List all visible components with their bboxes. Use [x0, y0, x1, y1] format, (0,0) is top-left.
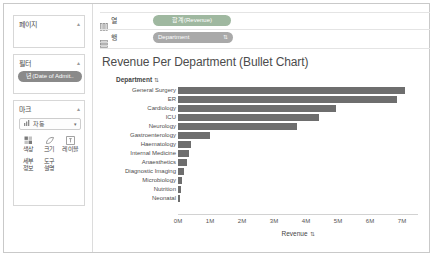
bar-category-label: Nutrition: [154, 185, 176, 194]
bar-row[interactable]: Microbiology: [100, 176, 430, 185]
sort-icon[interactable]: ⇅: [154, 77, 159, 83]
bar-category-label: General Surgery: [132, 86, 176, 95]
marks-color-label: 색상: [18, 146, 39, 153]
bar-row[interactable]: Haematology: [100, 140, 430, 149]
bar-track: [178, 114, 418, 121]
rows-icon: [100, 34, 108, 42]
bar-mark[interactable]: [178, 114, 319, 121]
bar-track: [178, 150, 418, 157]
marks-detail-button[interactable]: 세부 정보: [18, 158, 39, 172]
x-axis-tick-label: 6M: [366, 218, 374, 224]
chevron-down-icon[interactable]: ▾: [74, 119, 77, 130]
bar-track: [178, 186, 418, 193]
pill-department[interactable]: Department ⇅: [153, 32, 233, 43]
bar-track: [178, 195, 418, 202]
marks-label-label: 레이블: [60, 146, 81, 153]
bar-category-label: Neurology: [149, 122, 176, 131]
marks-label-button[interactable]: 레이블: [60, 135, 81, 153]
visualization-pane: Revenue Per Department (Bullet Chart) De…: [100, 50, 430, 252]
bar-mark[interactable]: [178, 186, 181, 193]
bar-row[interactable]: ICU: [100, 113, 430, 122]
marks-card[interactable]: 마크 ▴ 자동 ▾: [13, 100, 85, 206]
pages-card[interactable]: 페이지 ▴: [13, 15, 85, 48]
row-axis-header: Department⇅: [116, 76, 159, 83]
bar-category-label: ICU: [166, 113, 176, 122]
marks-detail-label-line1: 세부: [18, 158, 39, 165]
sort-icon[interactable]: ⇅: [223, 32, 228, 43]
x-axis-title: Revenue⇅: [178, 230, 418, 237]
bar-category-label: Anaesthetics: [142, 158, 176, 167]
color-swatch-icon: [18, 135, 39, 146]
tableau-worksheet-screenshot: 페이지 ▴ 필터 ▴ 년(Date of Admit.. 마크 ▴: [0, 0, 433, 256]
chart-title: Revenue Per Department (Bullet Chart): [102, 55, 308, 69]
bar-track: [178, 141, 418, 148]
bar-category-label: Neonatal: [152, 194, 176, 203]
shelf-rule-top: [100, 12, 430, 13]
bar-track: [178, 168, 418, 175]
filter-pill-year-date-of-admit[interactable]: 년(Date of Admit..: [18, 71, 82, 82]
marks-buttons-row-2: 세부 정보 도구 설명: [18, 158, 82, 172]
shelf-rule-bottom: [100, 48, 430, 49]
bar-mark[interactable]: [178, 168, 184, 175]
mark-type-value: 자동: [33, 119, 45, 130]
marks-tooltip-button[interactable]: 도구 설명: [39, 158, 60, 172]
bar-row[interactable]: ER: [100, 95, 430, 104]
bar-mark[interactable]: [178, 87, 405, 94]
bar-row[interactable]: Diagnostic Imaging: [100, 167, 430, 176]
bar-track: [178, 123, 418, 130]
rows-shelf[interactable]: 행 Department ⇅: [100, 31, 430, 48]
columns-icon: [100, 17, 108, 25]
x-axis-tick-label: 7M: [398, 218, 406, 224]
bar-row[interactable]: General Surgery: [100, 86, 430, 95]
bar-mark[interactable]: [178, 195, 180, 202]
chevron-up-icon[interactable]: ▴: [77, 106, 80, 112]
bar-mark[interactable]: [178, 123, 297, 130]
pill-sum-revenue[interactable]: 합계(Revenue): [153, 15, 231, 26]
bar-row[interactable]: Internal Medicine: [100, 149, 430, 158]
x-axis-tick-label: 3M: [270, 218, 278, 224]
bar-row[interactable]: Neonatal: [100, 194, 430, 203]
bar-track: [178, 159, 418, 166]
marks-size-button[interactable]: 크기: [39, 135, 60, 153]
marks-color-button[interactable]: 색상: [18, 135, 39, 153]
x-axis-line: [178, 214, 418, 215]
marks-empty-slot: [60, 158, 81, 172]
chevron-up-icon[interactable]: ▴: [77, 60, 80, 66]
bar-mark[interactable]: [178, 105, 336, 112]
bar-chart-icon: [24, 119, 30, 130]
x-axis-tick-label: 2M: [238, 218, 246, 224]
bar-category-label: Microbiology: [142, 176, 176, 185]
bar-category-label: Internal Medicine: [130, 149, 176, 158]
bar-row[interactable]: Gastroenterology: [100, 131, 430, 140]
chevron-up-icon[interactable]: ▴: [77, 21, 80, 27]
bar-plot-area: General SurgeryERCardiologyICUNeurologyG…: [100, 86, 430, 216]
x-axis-tick-label: 0M: [174, 218, 182, 224]
bar-track: [178, 105, 418, 112]
bar-row[interactable]: Anaesthetics: [100, 158, 430, 167]
marks-buttons-row-1: 색상 크기: [18, 135, 82, 153]
sidebar-divider: [92, 4, 93, 252]
bar-mark[interactable]: [178, 177, 182, 184]
shelf-rule-mid: [100, 29, 430, 30]
marks-tooltip-label-line2: 설명: [39, 165, 60, 172]
x-axis: 0M1M2M3M4M5M6M7M Revenue⇅: [100, 214, 430, 244]
bar-row[interactable]: Cardiology: [100, 104, 430, 113]
bar-mark[interactable]: [178, 141, 191, 148]
bar-track: [178, 87, 418, 94]
filters-card[interactable]: 필터 ▴ 년(Date of Admit..: [13, 54, 85, 94]
mark-type-dropdown[interactable]: 자동 ▾: [19, 118, 81, 130]
bar-mark[interactable]: [178, 159, 187, 166]
bar-row[interactable]: Nutrition: [100, 185, 430, 194]
bar-category-label: ER: [168, 95, 176, 104]
sort-icon[interactable]: ⇅: [310, 231, 315, 237]
bar-mark[interactable]: [178, 132, 210, 139]
bar-track: [178, 177, 418, 184]
bar-mark[interactable]: [178, 96, 397, 103]
bar-track: [178, 132, 418, 139]
bar-mark[interactable]: [178, 150, 189, 157]
bar-track: [178, 96, 418, 103]
bar-category-label: Gastroenterology: [130, 131, 176, 140]
bar-row[interactable]: Neurology: [100, 122, 430, 131]
bar-category-label: Cardiology: [147, 104, 176, 113]
x-axis-tick-label: 1M: [206, 218, 214, 224]
